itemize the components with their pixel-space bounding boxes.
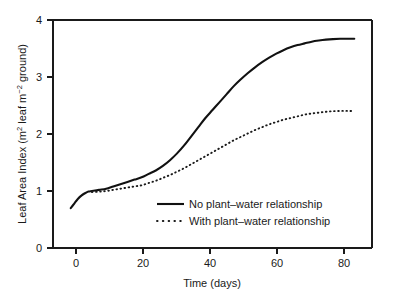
y-tick-label: 1 xyxy=(36,185,42,197)
x-tick-label: 20 xyxy=(137,257,149,269)
x-axis-title: Time (days) xyxy=(183,277,241,289)
y-tick-label: 2 xyxy=(36,128,42,140)
line-chart: 0 1 2 3 4 0 20 40 60 80 Time (days) Leaf… xyxy=(0,0,394,296)
y-tick-label: 4 xyxy=(36,14,42,26)
y-tick-label: 0 xyxy=(36,242,42,254)
x-tick-label: 40 xyxy=(204,257,216,269)
y-axis-title-mid: leaf m xyxy=(16,94,28,127)
y-axis-title-tail: ground) xyxy=(16,44,28,85)
y-axis-title-lead: Leaf Area Index (m xyxy=(16,131,28,224)
chart-figure: 0 1 2 3 4 0 20 40 60 80 Time (days) Leaf… xyxy=(0,0,394,296)
legend-label-0: No plant–water relationship xyxy=(189,198,322,210)
legend-label-1: With plant–water relationship xyxy=(189,215,330,227)
x-tick-label: 0 xyxy=(73,257,79,269)
y-tick-label: 3 xyxy=(36,71,42,83)
chart-background xyxy=(0,0,394,296)
x-tick-label: 60 xyxy=(271,257,283,269)
y-axis-title: Leaf Area Index (m2 leaf m−2 ground) xyxy=(15,44,28,224)
x-tick-label: 80 xyxy=(338,257,350,269)
y-axis-title-sup-2: −2 xyxy=(15,85,24,94)
